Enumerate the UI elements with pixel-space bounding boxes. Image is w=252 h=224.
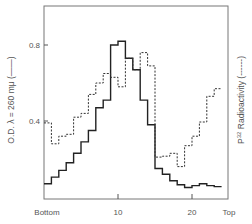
y-axis-label-right: P32 Radioactivity (------) — [236, 56, 246, 144]
x-tick-label-10: 10 — [114, 208, 123, 217]
x-tick-label-bottom: Bottom — [34, 208, 60, 217]
y-tick-label-04: 0.4 — [29, 117, 41, 126]
y-tick-label-08: 0.8 — [29, 41, 41, 50]
y-axis-label-left: O.D. λ = 260 mμ (——) — [6, 56, 16, 143]
chart: 0.8 0.4 Bottom 10 20 Top O.D. λ = 260 mμ… — [0, 0, 252, 224]
x-tick-label-top: Top — [223, 208, 236, 217]
x-tick-label-20: 20 — [188, 208, 197, 217]
plot-frame — [44, 6, 228, 199]
od-260-series-line — [44, 41, 222, 187]
